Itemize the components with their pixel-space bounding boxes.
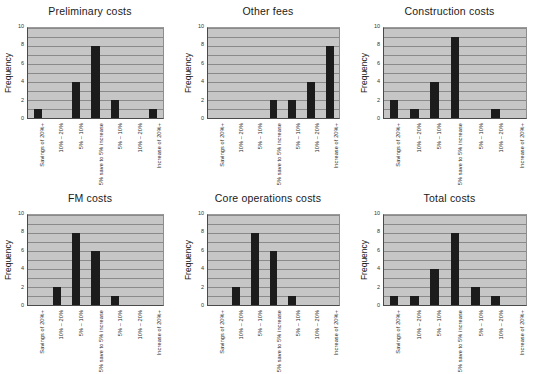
bar: [410, 109, 419, 118]
y-axis-tick-label: 4: [377, 79, 380, 85]
bar: [149, 109, 157, 118]
chart-title: Construction costs: [356, 5, 543, 17]
y-axis-tick-label: 10: [18, 24, 24, 30]
chart-panel: Total costsFrequency0246810Savings of 20…: [356, 187, 543, 374]
bar-slot: [86, 215, 105, 305]
bar-slot: [105, 215, 124, 305]
x-axis-tick-label: 5% save to 5% increase: [98, 123, 104, 185]
x-axis-tick: 5% save to 5% increase: [264, 308, 283, 372]
bar-series: [208, 28, 339, 118]
bar: [430, 82, 439, 118]
y-axis-tick-label: 10: [374, 211, 380, 217]
y-axis-label: Frequency: [1, 27, 15, 119]
bar-series: [28, 215, 163, 305]
bar-slot: [320, 28, 339, 118]
bar: [288, 100, 296, 118]
x-axis-tick: 10% – 20%: [404, 121, 425, 185]
x-axis-tick: 10% – 20%: [226, 308, 245, 372]
x-axis-labels: Savings of 20%+10% – 20%5% – 10%5% save …: [27, 121, 164, 185]
bar-slot: [425, 215, 445, 305]
bar-slot: [227, 215, 246, 305]
y-axis-tick-label: 4: [377, 266, 380, 272]
x-axis-tick: 5% – 10%: [66, 308, 86, 372]
chart-title: FM costs: [0, 192, 180, 204]
y-axis-tick-label: 0: [377, 303, 380, 309]
x-axis-tick: 5% – 10%: [245, 121, 264, 185]
x-axis-tick: Increase of 20%+: [321, 121, 340, 185]
y-axis-tick-label: 2: [201, 285, 204, 291]
x-axis-tick: 5% – 10%: [283, 121, 302, 185]
x-axis-tick: 10% – 20%: [302, 308, 321, 372]
y-axis-label: Frequency: [181, 27, 195, 119]
bar-slot: [445, 28, 465, 118]
x-axis-tick-label: 5% – 10%: [257, 123, 263, 149]
y-axis-tick-label: 6: [201, 248, 204, 254]
y-axis-tick-label: 0: [201, 303, 204, 309]
x-axis-tick: 10% – 20%: [302, 121, 321, 185]
bar-slot: [28, 215, 47, 305]
bar-slot: [264, 28, 283, 118]
gridline: [28, 118, 163, 119]
y-axis-tick-label: 10: [18, 211, 24, 217]
bar: [451, 233, 460, 305]
bar-slot: [485, 28, 505, 118]
plot-area: [383, 27, 527, 119]
gridline: [208, 305, 339, 306]
bar-slot: [404, 28, 424, 118]
bar-series: [28, 28, 163, 118]
x-axis-tick: Savings of 20%+: [27, 308, 47, 372]
bar: [232, 287, 240, 305]
y-axis-tick-label: 2: [201, 98, 204, 104]
y-axis-label: Frequency: [357, 27, 371, 119]
bar-slot: [124, 28, 143, 118]
x-axis-tick-label: Increase of 20%+: [156, 123, 162, 168]
gridline: [208, 118, 339, 119]
x-axis-tick-label: 5% – 10%: [78, 310, 84, 336]
x-axis-tick-label: 10% – 20%: [238, 123, 244, 153]
bar-slot: [245, 215, 264, 305]
x-axis-tick-label: 5% – 10%: [478, 123, 484, 149]
x-axis-tick: Savings of 20%+: [207, 121, 226, 185]
x-axis-tick-label: Savings of 20%+: [395, 310, 401, 354]
x-axis-tick-label: Savings of 20%+: [395, 123, 401, 167]
x-axis-tick-label: 10% – 20%: [137, 123, 143, 153]
gridline: [28, 305, 163, 306]
bar: [91, 46, 99, 118]
x-axis-tick-label: 5% – 10%: [117, 310, 123, 336]
x-axis-tick-label: Savings of 20%+: [39, 310, 45, 354]
x-axis-tick: 5% – 10%: [105, 308, 125, 372]
plot-area: [27, 214, 164, 306]
x-axis-tick: 10% – 20%: [125, 121, 145, 185]
x-axis-tick-label: Increase of 20%+: [333, 123, 339, 168]
x-axis-tick: 5% save to 5% increase: [445, 308, 466, 372]
x-axis-labels: Savings of 20%+10% – 20%5% – 10%5% save …: [27, 308, 164, 372]
x-axis-tick: 5% – 10%: [424, 121, 445, 185]
bar: [111, 296, 119, 305]
y-axis-tick-label: 8: [201, 230, 204, 236]
x-axis-tick: 5% – 10%: [465, 121, 486, 185]
y-axis-tick-label: 6: [201, 61, 204, 67]
bar-slot: [47, 28, 66, 118]
x-axis-tick: 10% – 20%: [226, 121, 245, 185]
x-axis-tick-label: Savings of 20%+: [39, 123, 45, 167]
figure-grid: Preliminary costsFrequency0246810Savings…: [0, 0, 543, 374]
bar: [91, 251, 99, 305]
y-axis-label: Frequency: [1, 214, 15, 306]
bar: [390, 296, 399, 305]
y-axis-tick-label: 10: [374, 24, 380, 30]
y-axis-label: Frequency: [181, 214, 195, 306]
y-axis-label-text: Frequency: [3, 53, 13, 93]
y-axis-tick-label: 0: [21, 303, 24, 309]
bar-slot: [404, 215, 424, 305]
bar-slot: [28, 28, 47, 118]
y-axis-tick-label: 2: [377, 285, 380, 291]
bar-slot: [67, 28, 86, 118]
bar-slot: [86, 28, 105, 118]
bar: [410, 296, 419, 305]
bar-slot: [144, 215, 163, 305]
x-axis-tick: Savings of 20%+: [27, 121, 47, 185]
gridline: [384, 305, 526, 306]
y-axis-tick-label: 8: [377, 43, 380, 49]
bar: [270, 100, 278, 118]
x-axis-tick-label: 10% – 20%: [58, 123, 64, 153]
